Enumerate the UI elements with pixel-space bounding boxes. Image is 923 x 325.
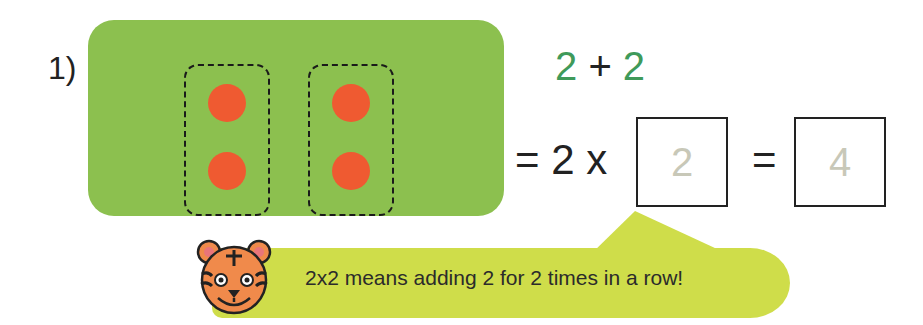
equals-sign: = xyxy=(515,136,540,183)
answer-box-product[interactable]: 4 xyxy=(794,117,886,207)
multiplication-expression: = 2 x xyxy=(515,136,607,184)
red-dot xyxy=(332,84,370,122)
dot-groups-panel xyxy=(88,20,504,216)
red-dot xyxy=(332,152,370,190)
times-sign: x xyxy=(586,136,607,183)
red-dot xyxy=(208,84,246,122)
factor: 2 xyxy=(551,136,574,183)
addend-left: 2 xyxy=(555,44,577,88)
red-dot xyxy=(208,152,246,190)
equals-sign-2: = xyxy=(752,136,777,184)
dashed-group-1 xyxy=(184,64,270,216)
dashed-group-2 xyxy=(308,64,394,216)
addend-right: 2 xyxy=(623,44,645,88)
hint-text: 2x2 means adding 2 for 2 times in a row! xyxy=(305,266,683,290)
answer-box-multiplier[interactable]: 2 xyxy=(636,117,728,207)
addition-expression: 2 + 2 xyxy=(555,44,645,89)
tiger-face-icon xyxy=(192,236,276,320)
plus-sign: + xyxy=(588,44,611,88)
question-number: 1) xyxy=(48,50,76,87)
